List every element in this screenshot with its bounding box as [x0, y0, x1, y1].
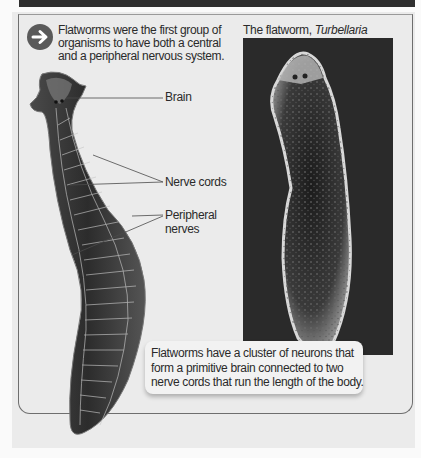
label-peripheral-line: Peripheral	[165, 208, 217, 222]
explanation-callout: Flatworms have a cluster of neurons that…	[145, 341, 363, 394]
label-nerve-cords: Nerve cords	[165, 175, 226, 189]
callout-line: form a primitive brain connected to two	[151, 361, 357, 376]
label-peripheral-line: nerves	[165, 222, 217, 236]
label-peripheral-nerves: Peripheral nerves	[165, 208, 217, 236]
label-brain: Brain	[165, 90, 192, 104]
callout-line: Flatworms have a cluster of neurons that	[151, 346, 357, 361]
callout-line: nerve cords that run the length of the b…	[151, 375, 357, 390]
